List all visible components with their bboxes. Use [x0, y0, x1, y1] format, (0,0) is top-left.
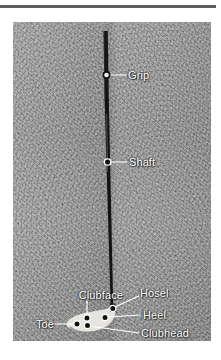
marker-grip [103, 72, 109, 78]
label-toe: Toe [13, 318, 54, 330]
label-clubface: Clubface [13, 289, 123, 301]
golf-club-figure: Grip Shaft Hosel Heel Clubhead Clubface … [13, 22, 211, 341]
label-hosel: Hosel [140, 287, 169, 299]
marker-toe [74, 321, 80, 327]
marker-clubhead [84, 322, 90, 328]
club-shaft [105, 100, 114, 305]
top-horizontal-rule [0, 5, 216, 8]
label-shaft: Shaft [129, 156, 155, 168]
marker-heel [102, 314, 108, 320]
label-grip: Grip [128, 69, 149, 81]
label-clubhead: Clubhead [141, 327, 189, 339]
marker-clubface [84, 315, 90, 321]
label-heel: Heel [143, 309, 166, 321]
marker-hosel [110, 305, 116, 311]
marker-shaft [104, 159, 110, 165]
